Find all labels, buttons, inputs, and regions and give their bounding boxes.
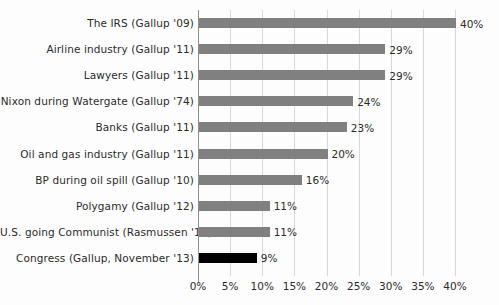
category-label: Nixon during Watergate (Gallup '74) [0, 95, 194, 107]
x-axis: 0%5%10%15%20%25%30%35%40% [198, 280, 455, 300]
bar-value-label: 29% [389, 71, 412, 81]
bar-value-label: 11% [274, 201, 297, 211]
category-label: The IRS (Gallup '09) [0, 17, 194, 29]
category-label: Polygamy (Gallup '12) [0, 200, 194, 212]
category-label: Banks (Gallup '11) [0, 121, 194, 133]
category-label: U.S. going Communist (Rasmussen '11) [0, 226, 194, 238]
bar-value-label: 23% [351, 123, 374, 133]
gridline-40% [455, 10, 456, 276]
bar [199, 227, 270, 237]
bar [199, 149, 328, 159]
x-tick-label: 35% [411, 280, 434, 292]
category-label-column: The IRS (Gallup '09)Airline industry (Ga… [0, 0, 194, 305]
x-tick-label: 5% [222, 280, 239, 292]
bar-value-label: 11% [274, 227, 297, 237]
plot-area: 40%29%29%24%23%20%16%11%11%9% [198, 0, 455, 276]
x-tick-label: 15% [283, 280, 306, 292]
category-label: Oil and gas industry (Gallup '11) [0, 148, 194, 160]
bar [199, 18, 456, 28]
bar [199, 70, 385, 80]
category-label: Congress (Gallup, November '13) [0, 252, 194, 264]
bar [199, 122, 347, 132]
bar [199, 201, 270, 211]
gridline-35% [423, 10, 424, 276]
bar-value-label: 9% [261, 253, 278, 263]
x-tick-label: 25% [347, 280, 370, 292]
x-tick-label: 30% [379, 280, 402, 292]
bar-chart: The IRS (Gallup '09)Airline industry (Ga… [0, 0, 499, 305]
x-tick-label: 20% [315, 280, 338, 292]
bar [199, 96, 353, 106]
bar [199, 175, 302, 185]
bar-value-label: 40% [460, 19, 483, 29]
bar-value-label: 16% [306, 175, 329, 185]
bar [199, 44, 385, 54]
category-label: BP during oil spill (Gallup '10) [0, 174, 194, 186]
x-tick-label: 40% [443, 280, 466, 292]
x-tick-label: 0% [190, 280, 207, 292]
bar-value-label: 29% [389, 45, 412, 55]
category-label: Airline industry (Gallup '11) [0, 43, 194, 55]
x-tick-label: 10% [251, 280, 274, 292]
bar [199, 253, 257, 263]
bar-value-label: 24% [357, 97, 380, 107]
category-label: Lawyers (Gallup '11) [0, 69, 194, 81]
bar-value-label: 20% [332, 149, 355, 159]
